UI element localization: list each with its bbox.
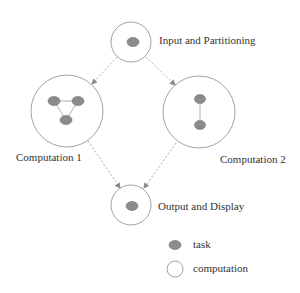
legend-computation-label: computation bbox=[193, 262, 248, 274]
node-output-and-display: Output and Display bbox=[111, 185, 245, 225]
legend-computation-icon bbox=[167, 261, 183, 277]
node-computation-2: Computation 2 bbox=[163, 76, 286, 165]
computation-circle bbox=[31, 75, 103, 147]
diagram-canvas: Input and Partitioning Computation 1 Com… bbox=[0, 0, 300, 293]
computation-circle bbox=[163, 76, 235, 148]
node-label: Input and Partitioning bbox=[159, 34, 256, 46]
task-icon bbox=[195, 121, 206, 130]
arrow-comp1-to-output bbox=[88, 141, 120, 188]
arrow-input-to-comp1 bbox=[92, 57, 117, 84]
arrow-comp2-to-output bbox=[144, 143, 176, 188]
task-icon bbox=[60, 116, 72, 125]
node-label: Computation 2 bbox=[220, 153, 286, 165]
node-label: Computation 1 bbox=[16, 151, 82, 163]
task-icon bbox=[48, 97, 60, 106]
task-icon bbox=[126, 202, 138, 211]
legend-task-icon bbox=[169, 241, 181, 250]
legend: task computation bbox=[167, 238, 248, 277]
task-icon bbox=[72, 97, 84, 106]
node-computation-1: Computation 1 bbox=[16, 75, 103, 163]
task-icon bbox=[127, 38, 139, 47]
node-label: Output and Display bbox=[158, 200, 245, 212]
legend-task-label: task bbox=[193, 238, 211, 250]
arrow-input-to-comp2 bbox=[146, 57, 175, 85]
task-icon bbox=[195, 95, 206, 104]
node-input-and-partitioning: Input and Partitioning bbox=[111, 22, 256, 62]
